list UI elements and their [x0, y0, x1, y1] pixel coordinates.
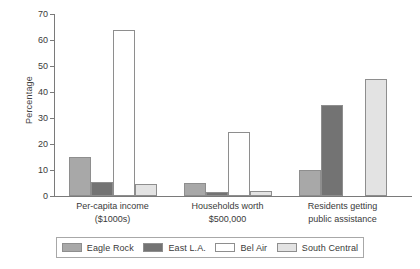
plot-area — [55, 14, 400, 196]
bar — [365, 79, 387, 196]
y-axis-tick-label: 50 — [26, 61, 48, 71]
legend-item[interactable]: East L.A. — [143, 243, 205, 253]
legend-item[interactable]: Eagle Rock — [62, 243, 134, 253]
bar-group — [55, 14, 170, 196]
y-axis-tick-label: 40 — [26, 87, 48, 97]
y-axis-tick-label: 60 — [26, 35, 48, 45]
y-axis-tick-label: 70 — [26, 9, 48, 19]
bar — [299, 170, 321, 196]
y-axis-tick-label: 20 — [26, 139, 48, 149]
bar — [321, 105, 343, 196]
x-axis-group-label: Residents gettingpublic assistance — [273, 200, 413, 225]
legend-swatch-icon — [143, 243, 163, 252]
bar — [135, 184, 157, 196]
y-axis-tick-label: 10 — [26, 165, 48, 175]
legend-item[interactable]: Bel Air — [215, 243, 267, 253]
x-axis-group-label-line: Residents getting — [273, 200, 413, 213]
legend-label: South Central — [302, 243, 358, 253]
bar — [91, 182, 113, 196]
legend-label: East L.A. — [168, 243, 205, 253]
legend-item[interactable]: South Central — [277, 243, 358, 253]
bar — [228, 132, 250, 196]
legend-label: Eagle Rock — [87, 243, 134, 253]
legend-label: Bel Air — [240, 243, 267, 253]
legend-swatch-icon — [215, 243, 235, 252]
y-axis-tick-labels: 010203040506070 — [26, 14, 48, 196]
x-axis-line — [54, 196, 412, 197]
x-axis-group-label-line: public assistance — [273, 213, 413, 226]
y-axis-tick-label: 30 — [26, 113, 48, 123]
bar-chart: Percentage 010203040506070 Per-capita in… — [0, 0, 420, 269]
bar — [184, 183, 206, 196]
bar-group — [285, 14, 400, 196]
legend-swatch-icon — [277, 243, 297, 252]
chart-legend: Eagle RockEast L.A.Bel AirSouth Central — [56, 237, 364, 258]
bar-group — [170, 14, 285, 196]
legend-swatch-icon — [62, 243, 82, 252]
bar — [69, 157, 91, 196]
bar — [113, 30, 135, 196]
